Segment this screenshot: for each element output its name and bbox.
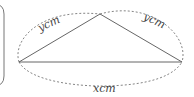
partial-box-border: [0, 4, 4, 86]
triangle-diagram: ycm ycm xcm: [0, 0, 194, 97]
left-side-label: ycm: [35, 13, 62, 35]
right-side-label: ycm: [140, 9, 167, 31]
base-label: xcm: [93, 82, 116, 95]
right-side-arc: [100, 11, 183, 62]
